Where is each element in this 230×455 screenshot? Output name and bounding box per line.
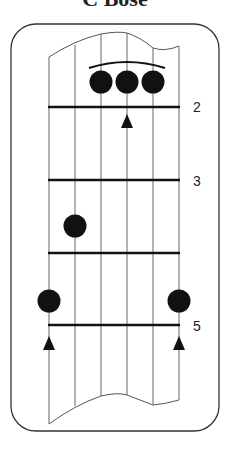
triangle-icon — [173, 336, 185, 350]
triangle-markers — [43, 114, 185, 350]
note-dot — [168, 290, 191, 313]
fret-label-3: 3 — [193, 173, 201, 189]
chord-diagram: 2 3 5 — [0, 0, 230, 455]
diagram-frame — [11, 24, 219, 431]
note-dot — [142, 71, 165, 94]
triangle-icon — [43, 336, 55, 350]
note-dot — [90, 71, 113, 94]
neck-top-edge — [49, 32, 179, 57]
note-dot — [116, 71, 139, 94]
note-dot — [38, 290, 61, 313]
neck-bottom-edge — [49, 394, 179, 424]
fret-label-5: 5 — [193, 318, 201, 334]
frets — [48, 107, 180, 325]
note-dot — [64, 215, 87, 238]
triangle-icon — [121, 114, 133, 128]
fret-label-2: 2 — [193, 99, 201, 115]
